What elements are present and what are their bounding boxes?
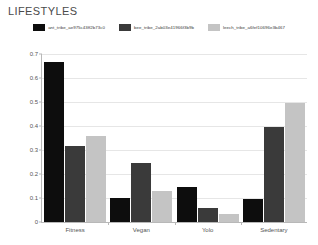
bar[interactable]	[219, 214, 239, 222]
bar[interactable]	[131, 163, 151, 222]
bar[interactable]	[243, 199, 263, 222]
x-axis-tick-mark	[241, 222, 242, 225]
y-axis-tick-label: 0.4	[30, 123, 38, 129]
bar-group-yolo: Yolo	[175, 54, 241, 222]
bar[interactable]	[177, 187, 197, 222]
chart-legend: ant_tribe_ae975c43ff2b73c0 bee_tribe_2ab…	[0, 24, 318, 31]
legend-swatch-ant-tribe	[33, 24, 45, 31]
bar[interactable]	[86, 136, 106, 222]
bar[interactable]	[285, 103, 305, 222]
y-axis-tick-label: 0.3	[30, 147, 38, 153]
y-axis-tick-label: 0.5	[30, 99, 38, 105]
bar[interactable]	[152, 191, 172, 222]
legend-label-leech-tribe: leech_tribe_a6fef10696e3b467	[223, 25, 285, 30]
bar[interactable]	[65, 146, 85, 222]
x-axis-tick-mark	[108, 222, 109, 225]
x-axis-tick-label: Vegan	[133, 227, 150, 233]
x-axis-tick-label: Yolo	[202, 227, 213, 233]
y-axis-tick-label: 0.1	[30, 195, 38, 201]
bars-layer: FitnessVeganYoloSedentary	[42, 54, 307, 222]
legend-swatch-bee-tribe	[119, 24, 131, 31]
y-axis-tick-label: 0	[35, 219, 38, 225]
bar-group-sedentary: Sedentary	[241, 54, 307, 222]
bar[interactable]	[110, 198, 130, 222]
bar[interactable]	[198, 208, 218, 222]
y-axis-tick-label: 0.6	[30, 75, 38, 81]
y-axis-tick-label: 0.7	[30, 51, 38, 57]
x-axis-tick-mark	[175, 222, 176, 225]
legend-swatch-leech-tribe	[208, 24, 220, 31]
plot-area: 00.10.20.30.40.50.60.7 FitnessVeganYoloS…	[41, 54, 307, 223]
legend-item-bee-tribe[interactable]: bee_tribe_2ab03e41966f3b9b	[119, 24, 194, 31]
legend-label-ant-tribe: ant_tribe_ae975c43ff2b73c0	[48, 25, 105, 30]
x-axis-tick-label: Fitness	[65, 227, 84, 233]
y-axis-tick-label: 0.2	[30, 171, 38, 177]
legend-item-ant-tribe[interactable]: ant_tribe_ae975c43ff2b73c0	[33, 24, 105, 31]
bar-group-fitness: Fitness	[42, 54, 108, 222]
bar[interactable]	[44, 62, 64, 222]
x-axis-tick-label: Sedentary	[260, 227, 287, 233]
legend-item-leech-tribe[interactable]: leech_tribe_a6fef10696e3b467	[208, 24, 285, 31]
chart-title: LIFESTYLES	[8, 5, 77, 17]
bar[interactable]	[264, 127, 284, 222]
legend-label-bee-tribe: bee_tribe_2ab03e41966f3b9b	[134, 25, 194, 30]
bar-group-vegan: Vegan	[108, 54, 174, 222]
